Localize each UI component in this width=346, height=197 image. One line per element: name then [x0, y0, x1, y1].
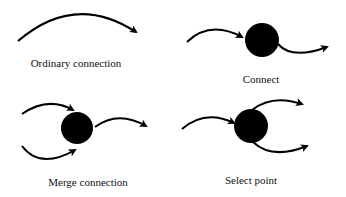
merge-connection-figure: [22, 104, 146, 159]
merge-connection-label: Merge connection: [48, 176, 128, 188]
select-out-top-arrow: [252, 100, 302, 110]
ordinary-connection-label: Ordinary connection: [31, 57, 122, 69]
select-node: [234, 109, 268, 143]
select-out-bottom-arrow: [253, 142, 307, 152]
select-point-label: Select point: [225, 174, 277, 186]
connect-figure: [187, 23, 327, 57]
merge-in-bottom-arrow: [22, 146, 75, 159]
merge-in-top-arrow: [22, 104, 73, 114]
connect-out-arrow: [278, 44, 327, 53]
connect-in-arrow: [187, 30, 242, 42]
connection-types-diagram: [0, 0, 346, 197]
connect-node: [245, 23, 279, 57]
merge-node: [61, 112, 93, 144]
merge-out-arrow: [95, 118, 146, 127]
ordinary-arrow: [18, 14, 136, 41]
connect-label: Connect: [243, 73, 280, 85]
select-in-arrow: [182, 117, 234, 129]
ordinary-connection-figure: [18, 14, 136, 41]
select-point-figure: [182, 100, 307, 152]
